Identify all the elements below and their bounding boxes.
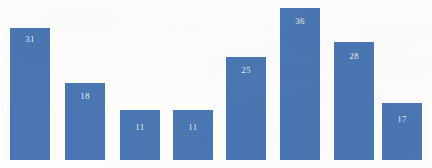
bar-2[interactable]: 18 bbox=[65, 83, 105, 160]
bar-value-label-3: 11 bbox=[120, 122, 160, 132]
bar-value-label-1: 31 bbox=[10, 34, 50, 44]
bar-chart: 31 18 11 11 25 36 28 17 bbox=[0, 0, 432, 168]
bar-4[interactable]: 11 bbox=[173, 110, 213, 160]
plot-area: 31 18 11 11 25 36 28 17 bbox=[0, 0, 432, 168]
bar-8[interactable]: 17 bbox=[382, 103, 422, 160]
bar-value-label-8: 17 bbox=[382, 114, 422, 124]
bar-7[interactable]: 28 bbox=[334, 42, 374, 160]
bar-value-label-4: 11 bbox=[173, 122, 213, 132]
bar-3[interactable]: 11 bbox=[120, 110, 160, 160]
bar-value-label-2: 18 bbox=[65, 91, 105, 101]
bar-value-label-6: 36 bbox=[280, 16, 320, 26]
bar-value-label-5: 25 bbox=[226, 65, 266, 75]
bar-5[interactable]: 25 bbox=[226, 57, 266, 160]
bar-1[interactable]: 31 bbox=[10, 28, 50, 160]
bar-6[interactable]: 36 bbox=[280, 8, 320, 160]
bar-value-label-7: 28 bbox=[334, 51, 374, 61]
